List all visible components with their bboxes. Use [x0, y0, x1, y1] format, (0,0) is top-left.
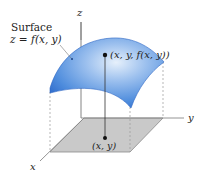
- surface-point: [103, 53, 107, 57]
- surface-label-leader: [60, 45, 71, 58]
- surface-label-line2: z = f(x, y): [9, 33, 62, 45]
- y-axis-label: y: [187, 112, 194, 123]
- surface-label-dot: [71, 58, 73, 60]
- surface-label-line1: Surface: [11, 21, 52, 33]
- z-axis-label: z: [76, 7, 83, 18]
- x-axis-label: x: [30, 161, 36, 172]
- point-label: (x, y, f(x, y)): [110, 49, 170, 60]
- base-point-label: (x, y): [92, 140, 116, 151]
- surface-diagram: Surface z = f(x, y) (x, y, f(x, y)) (x, …: [0, 0, 201, 181]
